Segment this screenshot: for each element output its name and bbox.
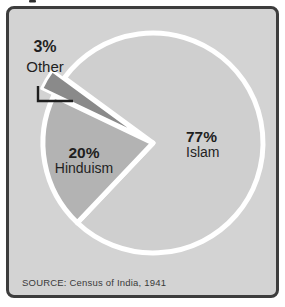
figure: 3% Other 20% Hinduism 77% Islam SOURCE: … [0, 0, 285, 307]
pie-chart [0, 0, 285, 307]
source-note: SOURCE: Census of India, 1941 [22, 277, 166, 288]
pie-slices [42, 33, 263, 253]
crop-artifact [29, 0, 36, 2]
